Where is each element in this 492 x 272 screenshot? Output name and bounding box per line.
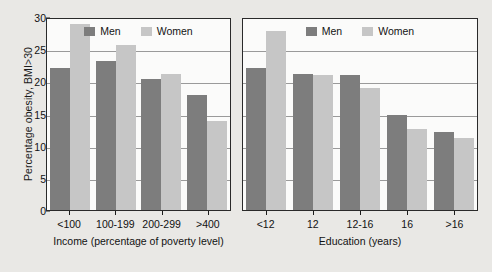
- bar-men-12: [293, 74, 313, 210]
- bar-men-100-199: [96, 61, 116, 210]
- x-tick-label: <12: [242, 218, 289, 230]
- bar-men-200-299: [141, 79, 161, 210]
- bar-women->16: [454, 138, 474, 210]
- x-tick-mark: [407, 211, 408, 215]
- y-tick-label: 30: [20, 12, 46, 24]
- y-tick-label: 25: [20, 44, 46, 56]
- x-tick-mark: [69, 211, 70, 215]
- y-tick-label: 10: [20, 141, 46, 153]
- bar-women-<100: [70, 24, 90, 210]
- bar-group: [93, 19, 139, 210]
- bar-group: [383, 19, 430, 210]
- y-tick-label: 5: [20, 173, 46, 185]
- x-tick-label: >16: [431, 218, 478, 230]
- x-axis-title-education: Education (years): [242, 235, 478, 247]
- y-tick-label: 0: [20, 205, 46, 217]
- bar-group: [337, 19, 384, 210]
- bar-women-12: [313, 75, 333, 210]
- x-tick-label: <100: [46, 218, 92, 230]
- x-tick-mark: [360, 211, 361, 215]
- bar-groups-education: [243, 19, 477, 210]
- panel-education: Men Women: [242, 18, 478, 211]
- bar-men->400: [187, 95, 207, 210]
- bar-men-16: [387, 115, 407, 210]
- bar-men-12-16: [340, 75, 360, 210]
- bar-men->16: [434, 132, 454, 210]
- bar-groups-income: [47, 19, 230, 210]
- bar-group: [139, 19, 185, 210]
- bar-group: [430, 19, 477, 210]
- panel-income: Men Women: [46, 18, 231, 211]
- obesity-bar-chart-figure: Percentage obesity, BMI>30 051015202530 …: [0, 0, 492, 272]
- plot-area-income: Men Women: [47, 19, 230, 210]
- y-axis: 051015202530: [18, 0, 46, 272]
- x-tick-label: 12-16: [336, 218, 383, 230]
- x-axis-title-income: Income (percentage of poverty level): [46, 235, 231, 247]
- y-tick-label: 20: [20, 76, 46, 88]
- bar-men-<100: [50, 68, 70, 210]
- bar-group: [243, 19, 290, 210]
- x-tick-label: 16: [384, 218, 431, 230]
- x-axis-education: <121212-1616>16 Education (years): [242, 211, 478, 237]
- x-tick-label: >400: [185, 218, 231, 230]
- plot-area-education: Men Women: [243, 19, 477, 210]
- x-tick-label: 12: [289, 218, 336, 230]
- bar-women-16: [407, 129, 427, 210]
- bar-men-<12: [246, 68, 266, 210]
- bar-women->400: [207, 121, 227, 210]
- bar-women-200-299: [161, 74, 181, 210]
- bar-group: [290, 19, 337, 210]
- x-tick-mark: [454, 211, 455, 215]
- x-axis-income: <100100-199200-299>400 Income (percentag…: [46, 211, 231, 237]
- x-tick-mark: [313, 211, 314, 215]
- bar-group: [47, 19, 93, 210]
- x-tick-mark: [266, 211, 267, 215]
- bar-women-100-199: [116, 45, 136, 210]
- x-tick-mark: [208, 211, 209, 215]
- y-tick-label: 15: [20, 109, 46, 121]
- bar-women-<12: [266, 31, 286, 210]
- x-tick-mark: [115, 211, 116, 215]
- x-tick-label: 100-199: [92, 218, 138, 230]
- x-tick-label: 200-299: [139, 218, 185, 230]
- bar-women-12-16: [360, 88, 380, 210]
- x-tick-mark: [162, 211, 163, 215]
- bar-group: [184, 19, 230, 210]
